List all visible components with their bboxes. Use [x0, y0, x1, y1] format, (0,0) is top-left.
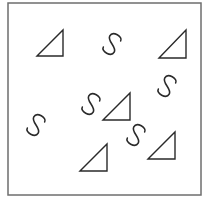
square-frame — [8, 3, 201, 195]
shapes-figure — [0, 0, 203, 198]
s-curve-icon — [101, 32, 122, 56]
triangle-icon — [159, 30, 186, 58]
triangle-icon — [37, 30, 63, 56]
triangle-icon — [148, 132, 175, 159]
s-curve-icon — [80, 92, 101, 116]
s-shapes-group — [25, 32, 177, 147]
s-curve-icon — [156, 74, 177, 98]
triangles-group — [37, 30, 186, 171]
triangle-icon — [80, 144, 107, 171]
triangle-icon — [103, 93, 130, 120]
s-curve-icon — [125, 123, 146, 147]
s-curve-icon — [25, 113, 46, 137]
